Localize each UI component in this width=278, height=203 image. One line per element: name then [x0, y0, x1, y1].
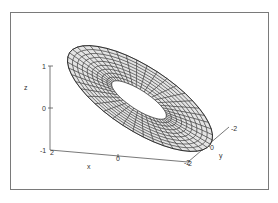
z-tick-label-0: 0: [42, 105, 46, 112]
x-tick-label-2: 2: [50, 149, 54, 156]
x-tick-label-0: 0: [116, 155, 120, 162]
y-tick-label-neg2: -2: [231, 125, 237, 132]
surface-mesh: [68, 46, 213, 152]
y-tick-label-2: 2: [188, 160, 192, 167]
plot-canvas: 1 0 -1 2 0 -2 -2 0 2 z x y: [0, 0, 278, 203]
z-axis-label: z: [24, 84, 28, 91]
y-axis-label: y: [219, 152, 223, 160]
z-tick-label-1: 1: [42, 63, 46, 70]
x-axis-label: x: [87, 163, 91, 170]
y-tick-label-0: 0: [210, 144, 214, 151]
z-tick-label-neg1: -1: [40, 147, 46, 154]
